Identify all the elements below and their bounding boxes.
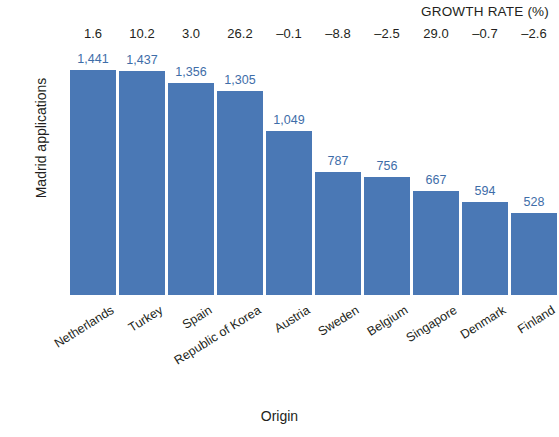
bar-republic-of-korea: [217, 91, 263, 295]
x-tick-label: Denmark: [458, 303, 508, 342]
bar-turkey: [119, 71, 165, 295]
bar-value-label: 528: [505, 195, 559, 209]
x-tick-label: Turkey: [126, 303, 165, 335]
bar-belgium: [364, 177, 410, 295]
x-tick-label: Austria: [272, 303, 312, 335]
bar-spain: [168, 83, 214, 295]
bar-singapore: [413, 191, 459, 295]
bar-value-label: 756: [358, 159, 416, 173]
bar-netherlands: [70, 70, 116, 295]
bar-denmark: [462, 202, 508, 295]
x-tick-label: Netherlands: [52, 303, 117, 351]
bar-austria: [266, 131, 312, 295]
bar-sweden: [315, 172, 361, 295]
x-tick-label: Republic of Korea: [172, 303, 264, 368]
x-tick-label: Sweden: [316, 303, 362, 339]
x-axis-title: Origin: [0, 408, 559, 424]
x-tick-label: Spain: [180, 303, 215, 332]
bar-chart: GROWTH RATE (%) 1.610.23.026.2–0.1–8.8–2…: [0, 0, 559, 437]
plot-area: 1,441Netherlands1,437Turkey1,356Spain1,3…: [0, 0, 559, 437]
bar-value-label: 1,049: [260, 113, 318, 127]
x-tick-label: Singapore: [404, 303, 460, 345]
bar-finland: [511, 213, 557, 295]
x-tick-label: Finland: [515, 303, 557, 337]
bar-value-label: 1,305: [211, 73, 269, 87]
